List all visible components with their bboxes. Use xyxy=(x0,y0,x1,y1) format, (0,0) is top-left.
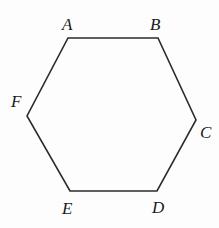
vertex-label-d: D xyxy=(152,199,164,216)
vertex-label-a: A xyxy=(62,16,72,33)
hexagon-shape xyxy=(0,0,219,228)
hexagon-outline xyxy=(27,38,196,191)
vertex-label-e: E xyxy=(62,200,72,217)
geometry-figure: A B C D E F xyxy=(0,0,219,228)
vertex-label-c: C xyxy=(200,124,211,141)
vertex-label-b: B xyxy=(150,16,160,33)
vertex-label-f: F xyxy=(11,93,21,110)
